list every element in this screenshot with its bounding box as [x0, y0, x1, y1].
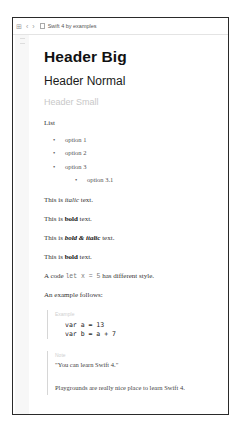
note-callout: Note "You can learn Swift 4." Playground…	[47, 351, 224, 395]
text: This is	[44, 196, 65, 204]
line-gutter	[15, 35, 29, 414]
bold-text: bold	[65, 253, 78, 261]
breadcrumb-title[interactable]: Swift 4 by examples	[48, 23, 97, 29]
text: text.	[79, 196, 93, 204]
back-chevron-icon[interactable]: ‹	[26, 23, 28, 30]
example-label: Example	[55, 310, 224, 317]
forward-chevron-icon[interactable]: ›	[32, 23, 34, 30]
italic-line: This is italic text.	[44, 196, 224, 205]
text: text.	[78, 253, 92, 261]
text: This is	[44, 215, 65, 223]
example-callout: Example var a = 13 var b = a + 7	[47, 310, 224, 339]
bold-italic-line: This is bold & italic text.	[44, 234, 224, 243]
list-item: option 3	[44, 160, 224, 173]
bold-text: bold	[65, 215, 78, 223]
inline-code: let x = 5	[65, 273, 100, 280]
code-line: var b = a + 7	[65, 330, 224, 339]
text: text.	[100, 234, 114, 242]
code-line: var a = 13	[65, 321, 224, 330]
italic-text: italic	[65, 196, 79, 204]
note-quote: "You can learn Swift 4."	[55, 361, 224, 368]
text: text.	[78, 215, 92, 223]
note-label: Note	[55, 351, 224, 358]
header-normal: Header Normal	[44, 74, 224, 88]
text: This is	[44, 253, 65, 261]
list-item: option 2	[44, 146, 224, 159]
navigation-toolbar: ⊞ ‹ › Swift 4 by examples	[13, 18, 228, 35]
list-label: List	[44, 119, 224, 128]
grid-icon[interactable]: ⊞	[16, 23, 22, 30]
example-intro: An example follows:	[44, 291, 224, 300]
run-marker-icon[interactable]	[20, 38, 25, 44]
bold-line: This is bold text.	[44, 215, 224, 224]
rendered-markup: Header Big Header Normal Header Small Li…	[44, 42, 224, 395]
inline-code-line: A code let x = 5 has different style.	[44, 272, 224, 281]
note-text: Playgrounds are really nice place to lea…	[55, 384, 224, 395]
bold-line-2: This is bold text.	[44, 253, 224, 262]
text: has different style.	[101, 272, 155, 280]
text: This is	[44, 234, 65, 242]
text: A code	[44, 272, 65, 280]
bold-italic-text: bold & italic	[65, 234, 101, 242]
playground-window: ⊞ ‹ › Swift 4 by examples Header Big Hea…	[12, 17, 229, 415]
bullet-list: option 1 option 2 option 3 option 3.1	[44, 133, 224, 186]
sub-list-item: option 3.1	[44, 173, 224, 186]
list-item: option 1	[44, 133, 224, 146]
header-big: Header Big	[44, 48, 224, 66]
header-small: Header Small	[44, 97, 224, 107]
document-icon	[40, 23, 45, 29]
